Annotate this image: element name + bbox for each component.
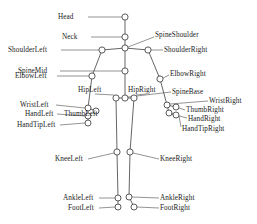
leader-line-hand-tip-right [179,116,181,127]
joint-hip-right [131,95,137,101]
label-ankle-left: AnkleLeft [63,194,93,202]
joint-spine-base [122,95,128,101]
skeleton-joint-diagram: HeadNeckSpineShoulderShoulderLeftShoulde… [0,0,257,224]
label-hand-tip-right: HandTipRight [182,125,224,133]
joint-shoulder-right [145,47,151,53]
joint-hand-tip-left [85,120,91,126]
joint-foot-left [115,204,121,210]
label-shoulder-left: ShoulderLeft [8,46,47,54]
joint-spine-shoulder [122,45,128,51]
leader-line-knee-left [88,153,114,159]
label-hip-right: HipRight [128,86,156,94]
leader-line-hip-left [95,94,114,95]
label-hand-left: HandLeft [25,110,53,118]
leader-line-wrist-left [56,105,85,108]
label-foot-right: FootRight [160,204,190,212]
label-hand-tip-left: HandTipLeft [17,121,55,129]
joint-foot-right [131,204,137,210]
joint-ankle-right [126,194,132,200]
bone-shoulder_left-to-elbow_left [92,50,102,76]
leader-line-knee-right [133,153,159,159]
joint-knee-left [114,149,120,155]
joint-head [122,14,128,20]
leader-line-ankle-right [132,197,159,198]
joint-hip-left [113,95,119,101]
bone-hip_left-to-knee_left [116,98,117,152]
label-hand-right: HandRight [188,115,220,123]
joint-neck [122,34,128,40]
joint-elbow-left [89,73,95,79]
label-spine-shoulder: SpineShoulder [155,31,199,39]
joint-thumb-right [173,104,179,110]
joint-wrist-right [164,102,170,108]
label-neck: Neck [62,33,78,41]
leader-line-elbow-right [163,75,169,78]
label-ankle-right: AnkleRight [160,194,195,202]
label-hip-left: HipLeft [78,86,101,94]
bone-shoulder_right-to-elbow_right [148,50,160,79]
label-elbow-right: ElbowRight [170,70,206,78]
leader-line-foot-left [99,207,115,208]
label-shoulder-right: ShoulderRight [164,46,207,54]
joint-spine-mid [122,68,128,74]
label-foot-left: FootLeft [68,204,94,212]
label-wrist-left: WristLeft [20,101,49,109]
leader-line-hand-tip-left [60,123,85,125]
label-knee-left: KneeLeft [55,155,83,163]
label-knee-right: KneeRight [160,155,192,163]
joint-marker-group [85,14,179,210]
joint-ankle-left [115,195,121,201]
leader-line-spine-shoulder [128,37,154,47]
leader-line-foot-right [137,207,159,208]
joint-knee-right [127,149,133,155]
leader-line-wrist-right [170,101,208,104]
label-wrist-right: WristRight [209,97,242,105]
label-head: Head [58,13,74,21]
joint-shoulder-left [99,47,105,53]
bone-knee_right-to-ankle_right [129,152,130,197]
joint-hand-tip-right [173,112,179,118]
bone-hip_right-to-knee_right [130,98,134,152]
label-elbow-left: ElbowLeft [15,72,47,80]
label-thumb-left: ThumbLeft [64,110,98,118]
bone-elbow_right-to-wrist_right [160,79,167,105]
leader-line-thumb-right [179,108,185,110]
label-thumb-right: ThumbRight [186,106,224,114]
joint-hand-right [166,110,172,116]
joint-elbow-right [157,76,163,82]
bone-knee_left-to-ankle_left [117,152,118,198]
label-spine-base: SpineBase [172,88,203,96]
